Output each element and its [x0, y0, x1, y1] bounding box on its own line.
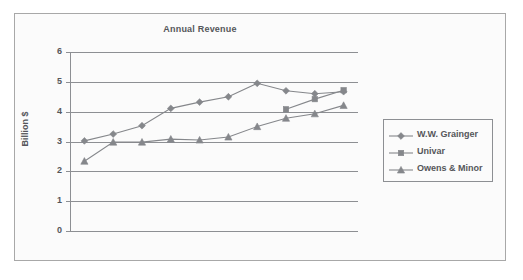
data-point-marker: [81, 158, 88, 165]
y-tick-label: 2: [32, 166, 62, 175]
y-tick-mark: [66, 231, 70, 232]
data-point-marker: [283, 107, 288, 112]
y-tick-label: 1: [32, 196, 62, 205]
legend-marker-diamond-icon: [388, 128, 414, 140]
data-point-marker: [167, 105, 174, 112]
series-layer: [70, 52, 358, 231]
data-point-marker: [139, 122, 146, 129]
y-tick-label: 5: [32, 77, 62, 86]
y-tick-label: 6: [32, 47, 62, 56]
data-point-marker: [398, 150, 403, 155]
data-point-marker: [81, 138, 88, 145]
gridline: [70, 231, 358, 232]
data-point-marker: [196, 99, 203, 106]
legend-item[interactable]: Owens & Minor: [388, 159, 488, 176]
y-tick-label: 4: [32, 107, 62, 116]
chart-legend: W.W. GraingerUnivarOwens & Minor: [383, 119, 493, 182]
data-point-marker: [312, 96, 317, 101]
series-line: [84, 105, 343, 161]
legend-label: Owens & Minor: [414, 163, 483, 173]
plot-area: 0123456 19941995199619971998199920002001…: [70, 52, 358, 231]
y-tick-label: 3: [32, 137, 62, 146]
data-point-marker: [283, 87, 290, 94]
data-point-marker: [110, 131, 117, 138]
data-point-marker: [398, 132, 405, 139]
chart-title: Annual Revenue: [0, 24, 400, 34]
legend-marker-square-icon: [388, 145, 414, 157]
y-tick-label: 0: [32, 226, 62, 235]
legend-marker-triangle-icon: [388, 162, 414, 174]
data-point-marker: [225, 93, 232, 100]
data-point-marker: [254, 80, 261, 87]
legend-item[interactable]: W.W. Grainger: [388, 125, 488, 142]
legend-item[interactable]: Univar: [388, 142, 488, 159]
y-axis-title: Billion $: [20, 99, 30, 159]
chart-figure: Annual Revenue Billion $ 0123456 1994199…: [0, 0, 523, 280]
legend-label: W.W. Grainger: [414, 129, 478, 139]
data-point-marker: [341, 87, 346, 92]
legend-label: Univar: [414, 146, 445, 156]
series-line: [84, 83, 343, 141]
data-point-marker: [340, 102, 347, 109]
